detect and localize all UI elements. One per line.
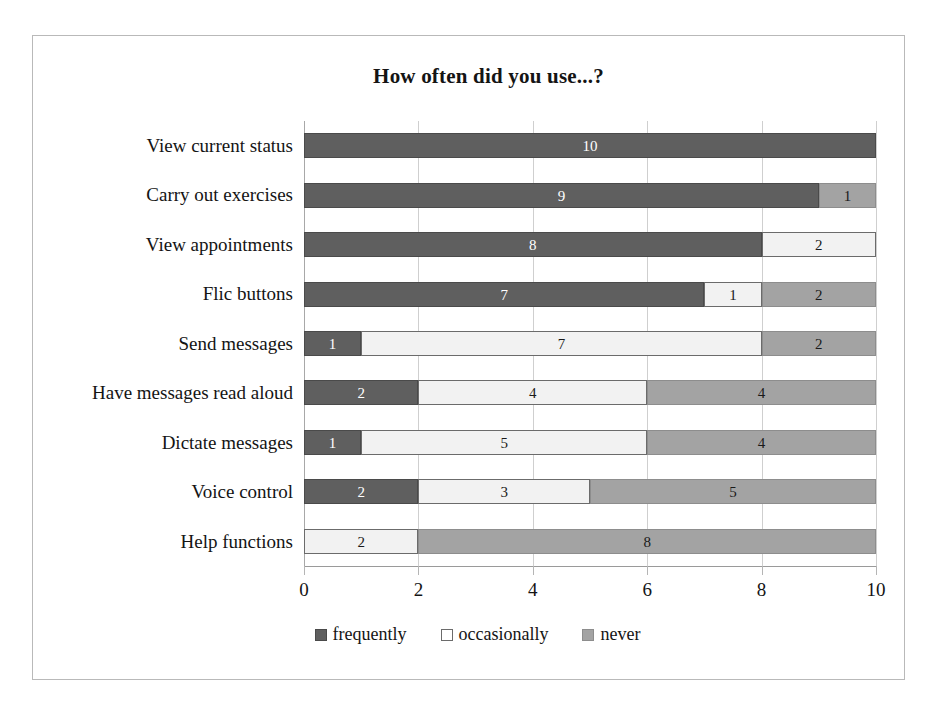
bar-segment-occasionally[interactable]: 1 xyxy=(704,282,761,307)
chart-row: Dictate messages154 xyxy=(304,418,876,467)
bar-segment-never[interactable]: 2 xyxy=(762,282,876,307)
x-tick-mark xyxy=(418,566,419,575)
bar-segment-frequently[interactable]: 8 xyxy=(304,232,762,257)
x-tick-mark xyxy=(647,566,648,575)
x-tick-mark xyxy=(876,566,877,575)
gridline-10 xyxy=(876,121,877,566)
legend-item-frequently[interactable]: frequently xyxy=(315,624,407,645)
bar-segment-frequently[interactable]: 2 xyxy=(304,380,418,405)
x-tick-label: 8 xyxy=(757,579,767,601)
bar-segment-frequently[interactable]: 1 xyxy=(304,430,361,455)
x-tick-label: 2 xyxy=(414,579,424,601)
plot-area: View current status10Carry out exercises… xyxy=(304,121,876,566)
bar-segment-never[interactable]: 4 xyxy=(647,380,876,405)
legend-item-occasionally[interactable]: occasionally xyxy=(441,624,549,645)
chart-title-text: How often did you use...? xyxy=(373,64,604,88)
x-tick-label: 10 xyxy=(867,579,886,601)
bar-track: 10 xyxy=(304,133,876,158)
bar-segment-occasionally[interactable]: 2 xyxy=(304,529,418,554)
bar-segment-occasionally[interactable]: 4 xyxy=(418,380,647,405)
category-label: View appointments xyxy=(146,220,293,269)
chart-row: View current status10 xyxy=(304,121,876,170)
bar-segment-never[interactable]: 8 xyxy=(418,529,876,554)
category-label: Send messages xyxy=(178,319,293,368)
bar-track: 172 xyxy=(304,331,876,356)
bar-track: 82 xyxy=(304,232,876,257)
bar-segment-occasionally[interactable]: 2 xyxy=(762,232,876,257)
legend-label: frequently xyxy=(333,624,407,645)
category-label: Help functions xyxy=(181,517,293,566)
bar-segment-never[interactable]: 4 xyxy=(647,430,876,455)
legend-label: occasionally xyxy=(459,624,549,645)
legend-swatch-never-icon xyxy=(582,629,594,641)
category-label: Flic buttons xyxy=(203,269,293,318)
chart-row: View appointments82 xyxy=(304,220,876,269)
chart-title: How often did you use...? xyxy=(33,64,904,89)
legend-item-never[interactable]: never xyxy=(582,624,640,645)
bar-segment-never[interactable]: 5 xyxy=(590,479,876,504)
category-label: Voice control xyxy=(192,467,294,516)
bar-segment-frequently[interactable]: 9 xyxy=(304,183,819,208)
category-label: Have messages read aloud xyxy=(92,368,293,417)
bar-segment-occasionally[interactable]: 7 xyxy=(361,331,761,356)
chart-row: Send messages172 xyxy=(304,319,876,368)
x-axis-line xyxy=(304,566,876,567)
bar-track: 244 xyxy=(304,380,876,405)
bar-track: 154 xyxy=(304,430,876,455)
bar-segment-frequently[interactable]: 1 xyxy=(304,331,361,356)
bar-segment-occasionally[interactable]: 5 xyxy=(361,430,647,455)
chart-row: Voice control235 xyxy=(304,467,876,516)
bar-track: 91 xyxy=(304,183,876,208)
x-tick-label: 6 xyxy=(642,579,652,601)
bar-segment-occasionally[interactable]: 3 xyxy=(418,479,590,504)
bar-segment-never[interactable]: 2 xyxy=(762,331,876,356)
chart-row: Have messages read aloud244 xyxy=(304,368,876,417)
legend-label: never xyxy=(600,624,640,645)
bar-track: 28 xyxy=(304,529,876,554)
chart-legend: frequentlyoccasionallynever xyxy=(33,624,904,645)
bar-track: 712 xyxy=(304,282,876,307)
x-tick-label: 0 xyxy=(299,579,309,601)
x-tick-mark xyxy=(762,566,763,575)
category-label: Dictate messages xyxy=(162,418,293,467)
chart-row: Flic buttons712 xyxy=(304,269,876,318)
bar-segment-never[interactable]: 1 xyxy=(819,183,876,208)
bar-track: 235 xyxy=(304,479,876,504)
category-label: Carry out exercises xyxy=(146,170,293,219)
x-tick-label: 4 xyxy=(528,579,538,601)
legend-swatch-frequently-icon xyxy=(315,629,327,641)
bar-segment-frequently[interactable]: 10 xyxy=(304,133,876,158)
x-tick-mark xyxy=(533,566,534,575)
legend-swatch-occasionally-icon xyxy=(441,629,453,641)
chart-frame: How often did you use...? View current s… xyxy=(32,35,905,680)
x-tick-mark xyxy=(304,566,305,575)
bar-segment-frequently[interactable]: 7 xyxy=(304,282,704,307)
bar-segment-frequently[interactable]: 2 xyxy=(304,479,418,504)
category-label: View current status xyxy=(146,121,293,170)
chart-row: Help functions28 xyxy=(304,517,876,566)
chart-row: Carry out exercises91 xyxy=(304,170,876,219)
